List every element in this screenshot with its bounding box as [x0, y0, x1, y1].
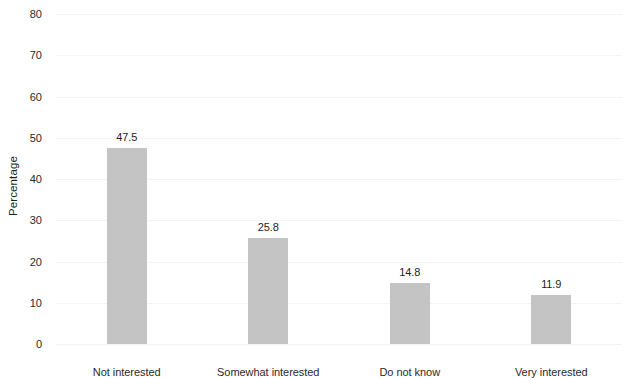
bar-value-label: 14.8	[399, 266, 420, 278]
y-axis-tick-label: 10	[2, 297, 42, 309]
y-axis-tick-label: 60	[2, 91, 42, 103]
y-axis-tick-label: 0	[2, 338, 42, 350]
y-axis-tick-label: 50	[2, 132, 42, 144]
plot-area: 01020304050607080 47.5Not interested25.8…	[56, 14, 622, 344]
bar[interactable]	[107, 148, 147, 344]
bar-group[interactable]: 14.8Do not know	[390, 14, 430, 344]
bar-value-label: 11.9	[541, 278, 561, 290]
bar[interactable]	[531, 295, 571, 344]
bar-value-label: 47.5	[116, 131, 137, 143]
bar-group[interactable]: 25.8Somewhat interested	[248, 14, 288, 344]
y-axis-tick-label: 70	[2, 49, 42, 61]
bar-group[interactable]: 11.9Very interested	[531, 14, 571, 344]
bar-value-label: 25.8	[258, 221, 279, 233]
x-axis-category-label: Somewhat interested	[217, 366, 319, 378]
y-axis-tick-label: 40	[2, 173, 42, 185]
bar[interactable]	[248, 238, 288, 344]
y-axis-tick-label: 80	[2, 8, 42, 20]
y-axis-tick-label: 20	[2, 256, 42, 268]
x-axis-category-label: Very interested	[515, 366, 588, 378]
bar-group[interactable]: 47.5Not interested	[107, 14, 147, 344]
x-axis-category-label: Not interested	[93, 366, 161, 378]
x-axis-category-label: Do not know	[379, 366, 440, 378]
gridline	[56, 344, 622, 345]
y-axis-tick-label: 30	[2, 214, 42, 226]
bar[interactable]	[390, 283, 430, 344]
